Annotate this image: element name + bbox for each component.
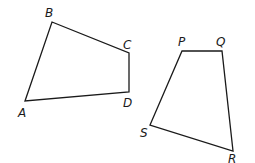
vertex-label-r: R xyxy=(228,152,236,163)
vertex-label-a: A xyxy=(17,106,26,120)
quadrilateral-pqrs: P Q R S xyxy=(140,35,236,163)
vertex-label-b: B xyxy=(45,6,53,20)
vertex-label-s: S xyxy=(140,126,148,140)
vertex-label-q: Q xyxy=(216,35,225,49)
quadrilateral-abcd: A B C D xyxy=(17,6,132,120)
quadrilateral-pqrs-outline xyxy=(150,51,233,151)
vertex-label-p: P xyxy=(178,35,186,49)
diagram-canvas: A B C D P Q R S xyxy=(0,0,255,163)
vertex-label-c: C xyxy=(123,38,132,52)
quadrilateral-abcd-outline xyxy=(25,22,129,101)
vertex-label-d: D xyxy=(123,96,132,110)
